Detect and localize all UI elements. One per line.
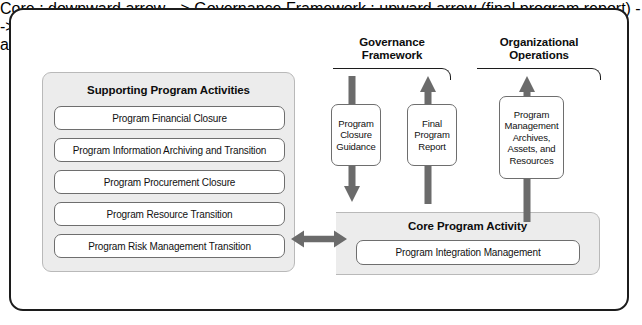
supporting-activity-item[interactable]: Program Procurement Closure [54, 170, 285, 194]
supporting-activity-item[interactable]: Program Risk Management Transition [54, 234, 285, 258]
supporting-activity-item[interactable]: Program Financial Closure [54, 106, 285, 130]
supporting-program-activities-heading: Supporting Program Activities [43, 84, 294, 96]
final-program-report-box[interactable]: Final Program Report [407, 104, 457, 166]
program-management-archives-box[interactable]: Program Management Archives, Assets, and… [499, 96, 564, 179]
program-management-archives-line-2: Management [505, 120, 559, 131]
core-program-activity-heading: Core Program Activity [336, 220, 599, 232]
program-closure-diagram: Supporting Program Activities Program Fi… [0, 0, 642, 325]
organizational-operations-label-line-1: Organizational [500, 36, 578, 48]
organizational-operations-label-line-2: Operations [509, 49, 569, 61]
final-program-report-line-1: Final [422, 118, 442, 129]
program-closure-guidance-box[interactable]: Program Closure Guidance [331, 104, 381, 166]
organizational-operations-rule [477, 68, 601, 80]
supporting-to-core-bidirectional-arrow-icon [291, 228, 347, 250]
supporting-activity-item[interactable]: Program Resource Transition [54, 202, 285, 226]
governance-framework-label: Governance Framework [333, 36, 451, 62]
final-program-report-line-3: Report [418, 141, 446, 152]
core-program-activity-panel: Core Program Activity Program Integratio… [336, 212, 600, 275]
organizational-operations-bracket: Organizational Operations [477, 36, 601, 80]
program-management-archives-line-3: Archives, [513, 132, 551, 143]
organizational-operations-label: Organizational Operations [477, 36, 601, 62]
program-management-archives-line-5: Resources [509, 155, 553, 166]
program-closure-guidance-line-3: Guidance [336, 141, 375, 152]
program-management-archives-line-1: Program [514, 109, 549, 120]
core-program-activity-item[interactable]: Program Integration Management [356, 240, 580, 265]
final-program-report-line-2: Program [414, 129, 449, 140]
governance-framework-bracket: Governance Framework [333, 36, 451, 80]
supporting-activity-item[interactable]: Program Information Archiving and Transi… [54, 138, 285, 162]
program-closure-guidance-line-1: Program [338, 118, 373, 129]
program-management-archives-line-4: Assets, and [507, 143, 555, 154]
supporting-program-activities-panel: Supporting Program Activities Program Fi… [42, 72, 295, 272]
program-closure-guidance-line-2: Closure [340, 129, 372, 140]
governance-framework-label-line-2: Framework [362, 49, 422, 61]
governance-framework-label-line-1: Governance [359, 36, 424, 48]
